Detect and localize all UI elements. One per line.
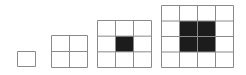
grid-figure-3: [97, 20, 152, 68]
grid-figure-1: [17, 51, 36, 67]
shaded-square: [116, 36, 134, 52]
grid-figure-4: [161, 5, 234, 68]
grid-figure-2: [51, 35, 88, 68]
